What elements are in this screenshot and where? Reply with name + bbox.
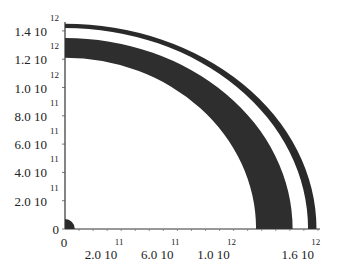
x-tick-label: 1.6 10	[282, 247, 315, 262]
x-tick-label: 2.0 10	[85, 247, 118, 262]
x-tick-exponent: 12	[311, 237, 320, 247]
x-tick-exponent: 12	[227, 237, 236, 247]
y-tick-label: 8.0 10	[15, 109, 48, 124]
y-tick-exponent: 11	[50, 154, 59, 164]
y-tick-exponent: 11	[50, 98, 59, 108]
y-axis-ticks: 02.0 10114.0 10116.0 10118.0 10111.0 101…	[15, 13, 66, 237]
y-tick-exponent: 11	[50, 126, 59, 136]
x-axis-ticks: 02.0 10116.0 10111.0 10121.6 1012	[61, 235, 321, 262]
y-tick-exponent: 12	[50, 70, 59, 80]
y-tick-label: 1.0 10	[15, 81, 48, 96]
inner-band-region	[65, 38, 293, 229]
y-tick-label: 0	[53, 222, 60, 237]
y-tick-label: 2.0 10	[15, 194, 48, 209]
y-tick-label: 1.2 10	[15, 52, 48, 67]
y-tick-label: 1.4 10	[15, 24, 48, 39]
y-tick-exponent: 12	[50, 41, 59, 51]
plot-regions	[65, 24, 316, 229]
y-tick-exponent: 12	[50, 13, 59, 23]
y-tick-label: 6.0 10	[15, 137, 48, 152]
x-tick-exponent: 11	[115, 237, 124, 247]
core-region	[65, 219, 75, 229]
y-tick-label: 4.0 10	[15, 165, 48, 180]
y-tick-exponent: 11	[50, 183, 59, 193]
x-tick-exponent: 11	[171, 237, 180, 247]
chart-canvas: 02.0 10116.0 10111.0 10121.6 1012 02.0 1…	[0, 0, 346, 273]
x-tick-label: 1.0 10	[197, 247, 230, 262]
x-tick-label: 6.0 10	[141, 247, 174, 262]
x-tick-label: 0	[61, 235, 68, 250]
